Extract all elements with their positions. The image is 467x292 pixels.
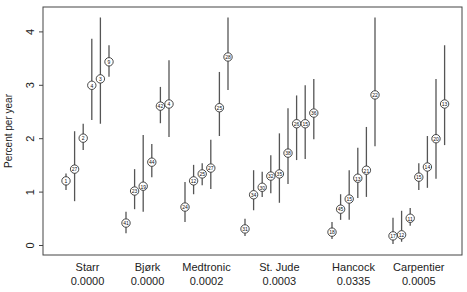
- data-point: 26: [292, 120, 300, 128]
- svg-text:13: 13: [442, 101, 448, 107]
- data-point: 32: [267, 172, 275, 180]
- group-p-value: 0.0005: [402, 275, 436, 287]
- x-axis-groups: Starr0.0000Bjørk0.0000Medtronic0.0002St.…: [71, 261, 445, 287]
- svg-text:28: 28: [225, 54, 231, 60]
- data-point: 28: [224, 53, 232, 61]
- y-axis: 01234: [24, 29, 43, 249]
- data-point: 42: [156, 102, 164, 110]
- data-point: 14: [423, 163, 431, 171]
- data-point: 30: [258, 183, 266, 191]
- group-starr: 1272439: [62, 17, 113, 201]
- data-point: 25: [215, 104, 223, 112]
- data-point: 9: [105, 58, 113, 66]
- svg-text:1: 1: [65, 178, 68, 184]
- svg-text:17: 17: [390, 233, 396, 239]
- svg-text:27: 27: [72, 166, 78, 172]
- data-series: 1272439412319444242412252725283134303235…: [62, 17, 449, 243]
- group-bj-rk: 41231944424: [122, 60, 173, 233]
- group-name: St. Jude: [259, 261, 299, 273]
- data-point: 34: [249, 191, 257, 199]
- data-point: 21: [362, 166, 370, 174]
- svg-text:26: 26: [294, 121, 300, 127]
- svg-text:31: 31: [242, 226, 248, 232]
- plot-frame: [43, 7, 462, 255]
- group-carpentier: 17121115142013: [389, 45, 449, 244]
- data-point: 18: [328, 228, 336, 236]
- group-medtronic: 241225272528: [181, 17, 232, 222]
- svg-text:32: 32: [268, 173, 274, 179]
- svg-text:14: 14: [425, 164, 431, 170]
- data-point: 19: [139, 182, 147, 190]
- svg-text:4: 4: [90, 83, 93, 89]
- data-point: 15: [415, 173, 423, 181]
- data-point: 25: [198, 170, 206, 178]
- svg-text:20: 20: [433, 136, 439, 142]
- data-point: 27: [70, 165, 78, 173]
- svg-text:11: 11: [408, 216, 413, 222]
- y-tick-label: 1: [24, 189, 36, 195]
- svg-text:24: 24: [182, 204, 188, 210]
- svg-text:30: 30: [259, 185, 265, 191]
- svg-text:45: 45: [338, 206, 344, 212]
- group-name: Hancock: [332, 261, 375, 273]
- data-point: 3: [96, 75, 104, 83]
- svg-text:21: 21: [364, 168, 370, 174]
- data-point: 36: [310, 109, 318, 117]
- data-point: 13: [440, 100, 448, 108]
- group-p-value: 0.0000: [131, 275, 165, 287]
- group-p-value: 0.0003: [263, 275, 297, 287]
- group-p-value: 0.0002: [190, 275, 224, 287]
- y-tick-label: 2: [24, 136, 36, 142]
- data-point: 31: [241, 225, 249, 233]
- svg-text:35: 35: [277, 171, 283, 177]
- group-st-jude: 313430323538261536: [241, 79, 318, 236]
- svg-text:2: 2: [82, 135, 85, 141]
- data-point: 20: [432, 135, 440, 143]
- group-p-value: 0.0000: [71, 275, 105, 287]
- group-p-value: 0.0335: [337, 275, 371, 287]
- svg-text:25: 25: [199, 171, 205, 177]
- svg-text:13: 13: [355, 176, 361, 182]
- data-point: 11: [406, 214, 414, 222]
- data-point: 24: [181, 203, 189, 211]
- svg-text:22: 22: [372, 92, 378, 98]
- data-point: 45: [336, 205, 344, 213]
- data-point: 4: [165, 100, 173, 108]
- svg-text:9: 9: [108, 59, 111, 65]
- data-point: 22: [371, 91, 379, 99]
- data-point: 17: [389, 232, 397, 240]
- data-point: 2: [79, 134, 87, 142]
- data-point: 15: [301, 120, 309, 128]
- data-point: 35: [275, 170, 283, 178]
- group-name: Carpentier: [393, 261, 445, 273]
- svg-text:38: 38: [285, 150, 291, 156]
- svg-text:12: 12: [191, 178, 197, 184]
- svg-text:4: 4: [168, 101, 171, 107]
- y-axis-label: Percent per year: [3, 93, 14, 168]
- data-point: 13: [354, 174, 362, 182]
- svg-text:25: 25: [217, 105, 223, 111]
- svg-text:27: 27: [208, 165, 214, 171]
- svg-text:3: 3: [99, 76, 102, 82]
- data-point: 38: [284, 149, 292, 157]
- svg-text:34: 34: [251, 192, 257, 198]
- group-name: Bjørk: [135, 261, 161, 273]
- data-point: 23: [130, 187, 138, 195]
- y-tick-label: 4: [24, 29, 36, 35]
- svg-text:12: 12: [399, 232, 405, 238]
- group-hancock: 184515132122: [328, 17, 379, 239]
- data-point: 12: [189, 177, 197, 185]
- svg-text:44: 44: [149, 159, 155, 165]
- y-tick-label: 3: [24, 82, 36, 88]
- data-point: 12: [397, 231, 405, 239]
- data-point: 1: [62, 177, 70, 185]
- y-tick-label: 0: [24, 242, 36, 248]
- group-name: Starr: [76, 261, 100, 273]
- svg-text:36: 36: [311, 110, 317, 116]
- chart-canvas: 01234 Percent per year 12724394123194442…: [0, 0, 467, 292]
- data-point: 4: [88, 81, 96, 89]
- group-name: Medtronic: [182, 261, 231, 273]
- svg-text:41: 41: [123, 220, 129, 226]
- svg-text:19: 19: [140, 184, 146, 190]
- svg-text:42: 42: [158, 103, 164, 109]
